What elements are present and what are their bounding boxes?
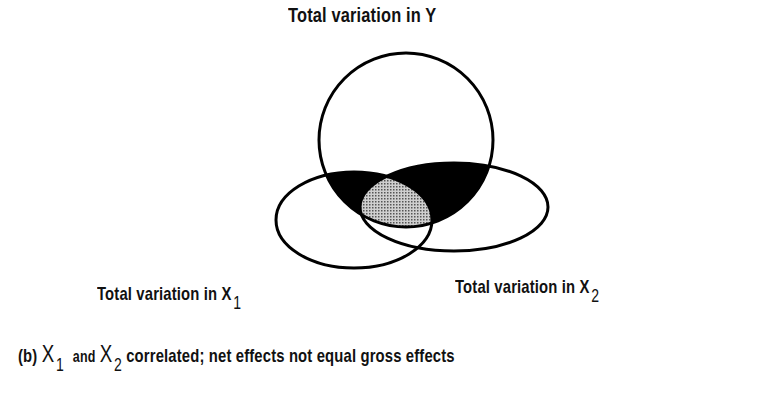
caption-prefix: (b): [18, 345, 37, 366]
caption-and: and: [73, 348, 96, 365]
caption-var1-sub: 1: [56, 355, 64, 375]
label-total-variation-x2: Total variation in X2: [455, 276, 599, 307]
label-x2-sub: 2: [591, 286, 599, 306]
caption-rest: correlated; net effects not equal gross …: [126, 345, 455, 366]
caption-var2: X: [100, 340, 113, 367]
label-y-text: Total variation in Y: [288, 4, 436, 26]
label-total-variation-x1: Total variation in X1: [97, 283, 241, 314]
caption-var2-sub: 2: [114, 355, 122, 375]
caption-var1: X: [42, 340, 55, 367]
label-x1-text: Total variation in X: [97, 283, 232, 304]
label-x1-sub: 1: [233, 293, 241, 313]
caption: (b) X1 and X2 correlated; net effects no…: [18, 340, 455, 376]
label-x2-text: Total variation in X: [455, 276, 590, 297]
label-total-variation-y: Total variation in Y: [288, 4, 436, 27]
